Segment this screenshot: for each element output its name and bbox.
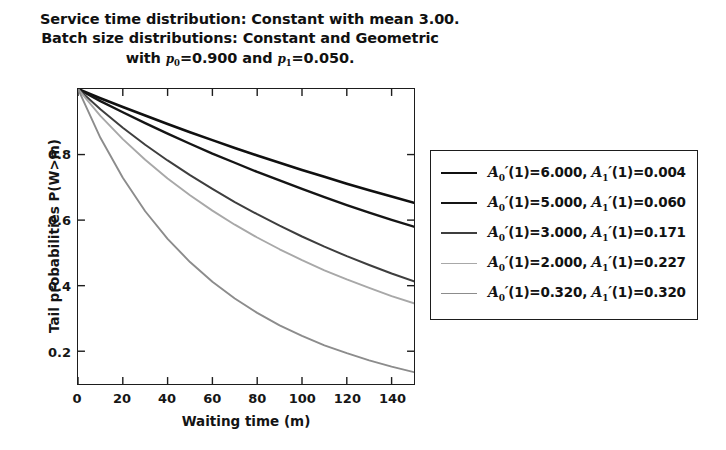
legend-item-0[interactable]: A0′(1)=6.000, A1′(1)=0.004 <box>441 160 689 186</box>
legend-label-4: A0′(1)=0.320, A1′(1)=0.320 <box>488 284 686 303</box>
x-tick-label-40: 40 <box>144 391 190 406</box>
axis-tick-marks <box>78 89 414 384</box>
legend-item-1[interactable]: A0′(1)=5.000, A1′(1)=0.060 <box>441 190 689 216</box>
chart-title-line-1: Service time distribution: Constant with… <box>40 10 440 29</box>
y-axis-label: Tail probabilities P(W>m) <box>46 106 62 366</box>
symbol-p0: p0 <box>166 52 180 66</box>
x-tick-label-80: 80 <box>234 391 280 406</box>
x-tick-label-140: 140 <box>369 391 415 406</box>
chart-title-line3-post: =0.050. <box>292 50 355 66</box>
chart-title-line3-mid: =0.900 and <box>180 50 278 66</box>
x-tick-label-60: 60 <box>189 391 235 406</box>
x-tick-label-120: 120 <box>324 391 370 406</box>
legend-item-3[interactable]: A0′(1)=2.000, A1′(1)=0.227 <box>441 250 689 276</box>
x-axis-tick-labels: 020406080100120140 <box>77 391 415 411</box>
legend-label-1: A0′(1)=5.000, A1′(1)=0.060 <box>488 194 686 213</box>
legend-item-4[interactable]: A0′(1)=0.320, A1′(1)=0.320 <box>441 280 689 306</box>
legend-box: A0′(1)=6.000, A1′(1)=0.004A0′(1)=5.000, … <box>430 150 698 320</box>
chart-title-line-2: Batch size distributions: Constant and G… <box>40 29 440 48</box>
x-tick-label-20: 20 <box>99 391 145 406</box>
legend-line-swatch-4 <box>441 293 477 294</box>
legend-line-swatch-3 <box>441 263 477 264</box>
chart-title: Service time distribution: Constant with… <box>40 10 440 70</box>
plot-curves-svg <box>78 89 414 384</box>
legend-label-2: A0′(1)=3.000, A1′(1)=0.171 <box>488 224 686 243</box>
figure-canvas: Service time distribution: Constant with… <box>0 0 726 450</box>
x-axis-label: Waiting time (m) <box>77 413 415 429</box>
legend-label-3: A0′(1)=2.000, A1′(1)=0.227 <box>488 254 686 273</box>
legend-line-swatch-2 <box>441 232 477 234</box>
data-curve-3 <box>78 89 414 303</box>
legend-item-2[interactable]: A0′(1)=3.000, A1′(1)=0.171 <box>441 220 689 246</box>
data-curves <box>78 89 414 372</box>
legend-label-0: A0′(1)=6.000, A1′(1)=0.004 <box>488 164 686 183</box>
chart-title-line3-pre: with <box>126 50 166 66</box>
plot-area <box>77 88 415 385</box>
legend-line-swatch-0 <box>441 172 477 174</box>
legend-line-swatch-1 <box>441 202 477 204</box>
chart-title-line-3: with p0=0.900 and p1=0.050. <box>40 49 440 70</box>
symbol-p1: p1 <box>277 52 291 66</box>
x-tick-label-100: 100 <box>279 391 325 406</box>
x-tick-label-0: 0 <box>54 391 100 406</box>
